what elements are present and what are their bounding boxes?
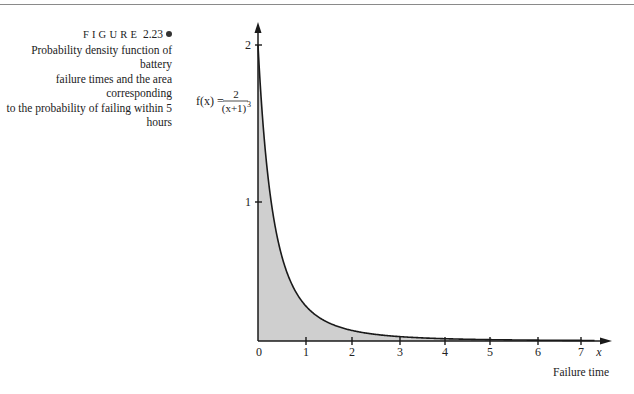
x-tick-0: 0 (256, 345, 262, 359)
formula-exponent: 3 (247, 100, 251, 109)
svg-text:1: 1 (245, 195, 251, 209)
formula-denominator: (x+1) (222, 102, 247, 115)
x-axis-arrow-icon (600, 338, 612, 345)
y-tick-2: 2 (245, 38, 262, 52)
x-tick-5: 5 (487, 345, 493, 359)
formula-numerator: 2 (233, 88, 239, 100)
density-curve (258, 45, 595, 340)
density-formula: f(x) = 2 (x+1) 3 (196, 88, 251, 115)
x-tick-4: 4 (442, 345, 448, 359)
x-tick-1: 1 (303, 345, 309, 359)
probability-area (258, 45, 489, 341)
x-axis-symbol: x (595, 345, 602, 359)
x-tick-6: 6 (535, 345, 541, 359)
x-tick-3: 3 (397, 345, 403, 359)
pdf-chart: 2 1 0 1 2 3 4 5 6 7 x Failure time f(x) … (0, 0, 634, 394)
x-tick-7: 7 (578, 345, 584, 359)
svg-text:2: 2 (245, 38, 251, 52)
x-axis-label: Failure time (553, 366, 609, 378)
formula-lhs: f(x) = (196, 94, 224, 108)
x-tick-2: 2 (349, 345, 355, 359)
y-axis-arrow-icon (255, 22, 262, 33)
